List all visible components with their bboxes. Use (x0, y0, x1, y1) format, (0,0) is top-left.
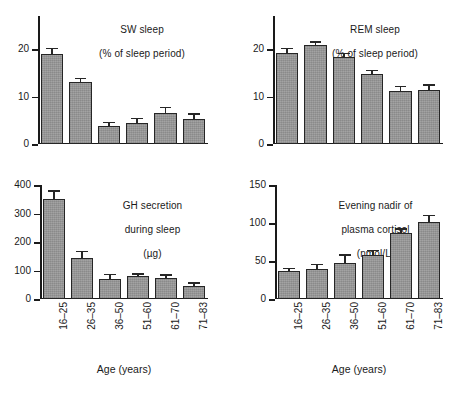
y-tick-label: 0 (258, 137, 264, 150)
y-tick-label: 0 (25, 292, 31, 305)
y-tick-label: 20 (253, 42, 264, 55)
bar-group (183, 30, 206, 144)
bar-group (334, 185, 356, 299)
bar (69, 82, 92, 144)
bar-group (361, 30, 384, 144)
bar-group (98, 30, 121, 144)
bar (278, 271, 300, 299)
bar-group (278, 185, 300, 299)
bar (361, 74, 384, 144)
y-tick-label: 20 (18, 42, 29, 55)
bar-series-sw-sleep (38, 30, 208, 144)
bar-group (183, 185, 205, 299)
x-category-label: 51–60 (142, 302, 153, 330)
error-bar-cap (367, 250, 379, 251)
x-category-label: 36–50 (349, 302, 360, 330)
x-category-label: 61–70 (170, 302, 181, 330)
error-bar-cap (423, 84, 435, 85)
bar (362, 255, 384, 299)
bar-group (99, 185, 121, 299)
bar-series-rem-sleep (273, 30, 443, 144)
bar (418, 90, 441, 144)
error-bar-cap (104, 274, 116, 275)
bar (154, 113, 177, 144)
error-bar-cap (395, 228, 407, 229)
x-category-label: 26–35 (321, 302, 332, 330)
x-category-label: 61–70 (405, 302, 416, 330)
figure-panel-grid: SW sleep (% of sleep period) 01020 REM s… (0, 0, 469, 393)
bar-group (127, 185, 149, 299)
bar-group (155, 185, 177, 299)
y-tick-label: 0 (23, 137, 29, 150)
error-bar-cap (48, 190, 60, 191)
y-tick-label: 400 (14, 178, 31, 191)
y-tick-label: 100 (14, 264, 31, 277)
bar-group (418, 185, 440, 299)
x-category-label: 36–50 (114, 302, 125, 330)
bar (99, 279, 121, 299)
error-bar-cap (188, 282, 200, 283)
bar-series-gh-secretion (40, 185, 208, 299)
panel-rem-sleep: REM sleep (% of sleep period) 01020 (235, 0, 469, 196)
bar (127, 276, 149, 299)
error-bar-cap (339, 254, 351, 255)
panel-sw-sleep: SW sleep (% of sleep period) 01020 (0, 0, 235, 196)
bar (390, 233, 412, 299)
bar (333, 57, 356, 144)
bar (183, 119, 206, 144)
plot-area-gh-secretion: 0100200300400 (40, 185, 208, 299)
x-category-label: 26–35 (86, 302, 97, 330)
bar-group (306, 185, 328, 299)
x-category-label: 71–83 (433, 302, 444, 330)
x-axis-title: Age (years) (275, 363, 443, 375)
plot-area-sw-sleep: 01020 (38, 30, 208, 144)
y-tick-label: 50 (255, 254, 266, 267)
error-bar-cap (338, 53, 350, 54)
bar-group (362, 185, 384, 299)
bar (98, 126, 121, 144)
bar (306, 269, 328, 299)
y-tick-mark (34, 299, 40, 301)
error-bar-cap (395, 86, 407, 87)
plot-area-rem-sleep: 01020 (273, 30, 443, 144)
bar-group (69, 30, 92, 144)
bar (418, 222, 440, 299)
x-category-label: 16–25 (58, 302, 69, 330)
bar-group (333, 30, 356, 144)
bar (43, 199, 65, 299)
error-bar-cap (103, 122, 115, 123)
bar (183, 286, 205, 299)
error-bar-cap (310, 41, 322, 42)
bar-group (43, 185, 65, 299)
error-bar-cap (160, 274, 172, 275)
bar (126, 123, 149, 144)
bar-group (389, 30, 412, 144)
error-bar-cap (281, 48, 293, 49)
bar (155, 278, 177, 299)
y-tick-mark (267, 144, 273, 146)
y-tick-label: 10 (18, 90, 29, 103)
y-tick-label: 0 (260, 292, 266, 305)
bar-group (390, 185, 412, 299)
plot-area-evening-cortisol: 050100150 (275, 185, 443, 299)
bar (276, 53, 299, 144)
x-axis-category-labels: 16–2526–3536–5051–6061–7071–83 (40, 302, 208, 358)
bar (389, 91, 412, 144)
bar-group (418, 30, 441, 144)
bar-group (126, 30, 149, 144)
y-tick-label: 10 (253, 90, 264, 103)
y-axis-extension (38, 16, 40, 30)
error-bar-cap (283, 268, 295, 269)
y-axis-extension (273, 16, 275, 30)
bar (41, 54, 64, 144)
y-tick-label: 150 (249, 178, 266, 191)
y-tick-mark (269, 299, 275, 301)
panel-gh-secretion: GH secretion during sleep (µg) 010020030… (0, 170, 235, 393)
error-bar-cap (188, 113, 200, 114)
error-bar-cap (75, 78, 87, 79)
x-category-label: 71–83 (198, 302, 209, 330)
bar-series-evening-cortisol (275, 185, 443, 299)
bar-group (154, 30, 177, 144)
bar-group (41, 30, 64, 144)
error-bar-cap (366, 70, 378, 71)
